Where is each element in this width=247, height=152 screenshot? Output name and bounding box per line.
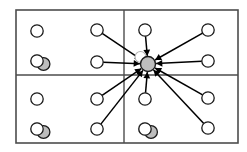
figure-root xyxy=(0,0,247,152)
node-q3-left-bottom-circle-icon xyxy=(31,123,43,135)
node-q4-inner-bottom-circle-icon xyxy=(139,123,151,135)
node-q3-left-top-circle-icon xyxy=(31,93,43,105)
quadrant-node-graph xyxy=(0,0,247,152)
node-q2-right-top-circle-icon xyxy=(202,24,214,36)
node-q1-left-bottom-circle-icon xyxy=(31,55,43,67)
node-q2-inner-top-circle-icon xyxy=(139,24,151,36)
central-hub-node-circle-icon xyxy=(141,57,156,72)
node-q4-right-top-circle-icon xyxy=(202,92,214,104)
node-q4-right-bottom-circle-icon xyxy=(202,122,214,134)
node-q1-left-top-circle-icon xyxy=(31,25,43,37)
node-q3-mid-bottom-circle-icon xyxy=(91,123,103,135)
node-q1-mid-bottom-circle-icon xyxy=(91,56,103,68)
node-q2-right-bottom-circle-icon xyxy=(202,55,214,67)
node-q4-inner-top-circle-icon xyxy=(139,93,151,105)
node-q1-mid-top-circle-icon xyxy=(91,24,103,36)
node-q3-mid-top-circle-icon xyxy=(91,93,103,105)
